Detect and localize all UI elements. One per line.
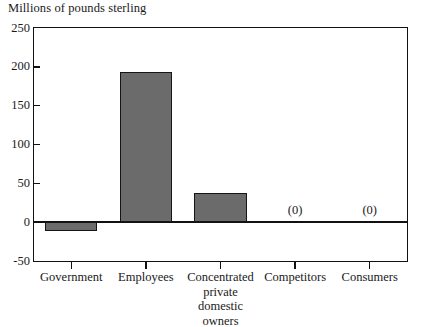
- x-axis-category-label: Government: [40, 270, 102, 285]
- x-axis-category-label-line: Employees: [118, 270, 174, 285]
- x-axis-category-label-line: private: [187, 285, 254, 300]
- x-axis-labels: GovernmentEmployeesConcentratedprivatedo…: [0, 0, 421, 327]
- x-axis-category-label-line: Government: [40, 270, 102, 285]
- x-axis-category-label-line: owners: [187, 314, 254, 327]
- x-axis-category-label: Competitors: [264, 270, 326, 285]
- x-axis-category-label-line: Concentrated: [187, 270, 254, 285]
- x-axis-category-label: Concentratedprivatedomesticowners: [187, 270, 254, 327]
- x-axis-category-label-line: domestic: [187, 299, 254, 314]
- bar-chart: Millions of pounds sterling 250200150100…: [0, 0, 421, 327]
- x-axis-category-label-line: Consumers: [342, 270, 398, 285]
- x-axis-category-label: Consumers: [342, 270, 398, 285]
- x-axis-category-label-line: Competitors: [264, 270, 326, 285]
- x-axis-category-label: Employees: [118, 270, 174, 285]
